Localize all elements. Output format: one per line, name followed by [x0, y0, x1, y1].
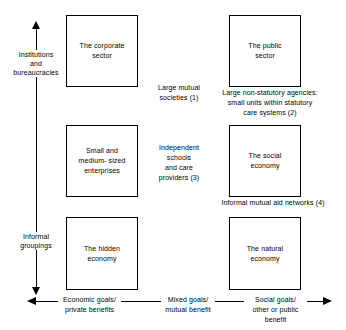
box-public-sector: The public sector [229, 15, 301, 87]
sector-matrix-diagram: Institutions and bureaucracies Informal … [0, 0, 346, 330]
box-small-medium-enterprises: Small and medium- sized enterprises [66, 125, 138, 197]
vertical-axis-top-label: Institutions and bureaucracies [4, 50, 68, 77]
vertical-axis-bottom-label: Informal groupings [4, 232, 68, 250]
box-social-economy: The social economy [229, 125, 301, 197]
label-informal-mutual-aid-networks: Informal mutual aid networks (4) [205, 198, 341, 208]
horizontal-axis-segment-4 [305, 301, 325, 302]
horizontal-axis-right-arrowhead-icon [323, 297, 332, 305]
label-independent-schools-and-care-providers: Independent schools and care providers (… [143, 143, 215, 183]
label-large-non-statutory-agencies: Large non-statutory agencies: small unit… [205, 88, 335, 118]
box-public-sector-label: The public sector [248, 41, 281, 61]
box-social-economy-label: The social economy [249, 151, 282, 171]
horizontal-axis-segment-2 [119, 301, 163, 302]
horizontal-axis-left-arrowhead-icon [27, 297, 36, 305]
horizontal-axis-middle-label: Mixed goals/ mutual benefit [161, 295, 215, 315]
box-hidden-economy: The hidden economy [66, 217, 138, 290]
horizontal-axis-segment-1 [36, 301, 60, 302]
horizontal-axis-segment-3 [213, 301, 247, 302]
box-corporate-sector: The corporate sector [66, 15, 138, 87]
box-natural-economy: The natural economy [229, 217, 301, 290]
box-hidden-economy-label: The hidden economy [84, 244, 120, 264]
box-natural-economy-label: The natural economy [247, 244, 284, 264]
vertical-axis-down-arrowhead-icon [32, 287, 40, 295]
box-small-medium-enterprises-label: Small and medium- sized enterprises [79, 146, 126, 176]
horizontal-axis-right-label: Social goals/ other or public benefit [244, 295, 307, 325]
horizontal-axis-left-label: Economic goals/ private benefits [58, 295, 121, 315]
box-corporate-sector-label: The corporate sector [80, 41, 125, 61]
